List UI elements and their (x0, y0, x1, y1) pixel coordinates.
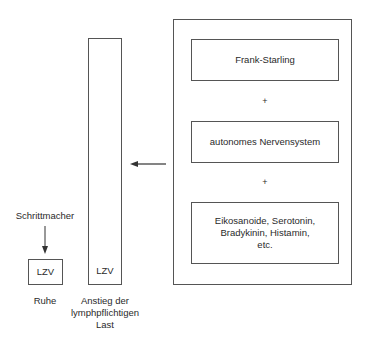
pacemaker-arrow-icon (42, 226, 48, 254)
left-arrow-icon (130, 161, 166, 167)
arrows-layer (0, 0, 367, 339)
